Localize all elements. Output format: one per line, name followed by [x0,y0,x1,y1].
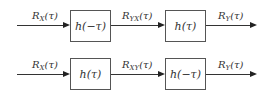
middle-label: RYX(τ) [122,10,152,23]
filter-block-2: h(−τ) [165,58,206,90]
arrow-icon [63,22,70,28]
arrow-icon [250,71,257,77]
filter-block-2: h(τ) [165,10,206,42]
output-wire [206,25,252,26]
output-wire [206,74,252,75]
filter-block-1: h(τ) [70,58,111,90]
arrow-icon [63,71,70,77]
output-label: RY(τ) [218,59,244,72]
input-label: RX(τ) [32,10,58,23]
filter-block-1: h(−τ) [70,10,111,42]
middle-label: RXY(τ) [122,59,152,72]
middle-wire [111,25,162,26]
input-label: RX(τ) [32,59,58,72]
arrow-icon [158,22,165,28]
middle-wire [111,74,162,75]
input-wire [17,74,67,75]
arrow-icon [250,22,257,28]
arrow-icon [158,71,165,77]
input-wire [17,25,67,26]
output-label: RY(τ) [218,10,244,23]
